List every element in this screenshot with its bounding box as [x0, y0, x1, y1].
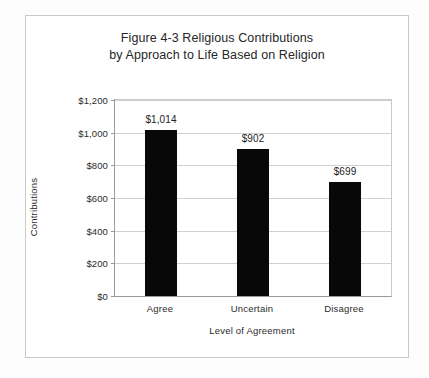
bar	[329, 182, 361, 296]
chart-title-line-2: by Approach to Life Based on Religion	[30, 47, 404, 64]
y-axis-tick-label: $800	[86, 160, 108, 171]
y-axis-tick-mark	[111, 231, 115, 232]
x-axis-category-label: Uncertain	[231, 303, 273, 314]
x-axis-title: Level of Agreement	[114, 325, 390, 336]
y-axis-tick-mark	[111, 198, 115, 199]
y-axis-tick-label: $1,200	[78, 95, 108, 106]
chart-title-line-1: Figure 4-3 Religious Contributions	[30, 30, 404, 47]
y-axis-tick-label: $400	[86, 225, 108, 236]
y-axis-tick-mark	[111, 296, 115, 297]
y-axis-tick-label: $200	[86, 258, 108, 269]
y-axis-tick-mark	[111, 263, 115, 264]
bar-value-label: $1,014	[145, 114, 176, 125]
bar-value-label: $699	[334, 166, 357, 177]
x-axis-category-label: Agree	[147, 303, 173, 314]
figure-container: Figure 4-3 Religious Contributions by Ap…	[0, 0, 429, 378]
y-axis-tick-mark	[111, 100, 115, 101]
chart-title: Figure 4-3 Religious Contributions by Ap…	[30, 30, 404, 64]
plot-area: $0$200$400$600$800$1,000$1,200$1,014$902…	[114, 99, 392, 297]
y-axis-title: Contributions	[28, 152, 39, 262]
y-axis-tick-mark	[111, 165, 115, 166]
bar-value-label: $902	[242, 133, 265, 144]
gridline	[115, 100, 391, 101]
x-axis-category-label: Disagree	[324, 303, 364, 314]
bar	[145, 130, 177, 296]
y-axis-tick-label: $1,000	[78, 127, 108, 138]
y-axis-tick-mark	[111, 133, 115, 134]
bar	[237, 149, 269, 296]
y-axis-tick-label: $600	[86, 193, 108, 204]
y-axis-tick-label: $0	[97, 291, 108, 302]
